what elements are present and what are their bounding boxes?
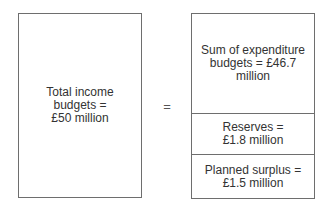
surplus-section: Planned surplus = £1.5 million — [192, 155, 314, 198]
surplus-line-1: Planned surplus = — [205, 164, 301, 177]
reserves-line-2: £1.8 million — [222, 134, 283, 147]
breakdown-box: Sum of expenditure budgets = £46.7 milli… — [191, 13, 315, 199]
expenditure-section: Sum of expenditure budgets = £46.7 milli… — [192, 14, 314, 113]
total-income-line-3: £50 million — [46, 112, 113, 125]
total-income-box: Total income budgets = £50 million — [18, 13, 142, 198]
reserves-section: Reserves = £1.8 million — [192, 114, 314, 154]
total-income-label: Total income budgets = £50 million — [19, 14, 141, 197]
expenditure-line-3: million — [201, 70, 305, 83]
surplus-line-2: £1.5 million — [205, 177, 301, 190]
equals-sign: = — [160, 99, 174, 115]
